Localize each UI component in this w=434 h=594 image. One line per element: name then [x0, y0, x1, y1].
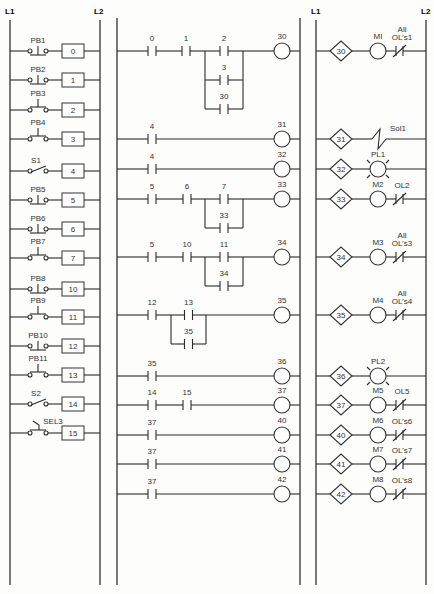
contact-no-icon: 13: [184, 298, 193, 320]
input-rung-3: PB43: [10, 118, 100, 146]
output-rung-32: 32PL1: [316, 150, 426, 179]
contact-address: 3: [222, 63, 227, 72]
contact-address: 2: [222, 34, 227, 43]
contact-no-icon: 1: [182, 34, 190, 56]
input-address: 11: [69, 313, 78, 322]
coil-address: 32: [278, 150, 287, 159]
ladder-svg: PB10PB21PB32PB43S14PB55PB66PB77PB810PB91…: [0, 0, 434, 594]
input-rung-1: PB21: [10, 65, 100, 87]
motor-starter-icon: [370, 249, 386, 265]
contact-no-icon: 0: [148, 34, 156, 56]
solenoid-icon: [372, 129, 386, 149]
input-rung-15: SEL315: [10, 417, 100, 440]
logic-rung-40: 3740: [117, 416, 300, 443]
input-rung-13: PB1113: [10, 354, 100, 382]
ladder-diagram: L1 L2 L1 L2 PB10PB21PB32PB43S14PB55PB66P…: [0, 0, 434, 594]
output-address: 30: [337, 47, 346, 56]
overload-label: OL's4: [392, 297, 413, 306]
input-rung-14: S214: [10, 389, 100, 411]
contact-no-icon: 4: [148, 122, 156, 144]
input-device-label: PB7: [30, 237, 46, 246]
contact-address: 30: [220, 92, 229, 101]
contact-address: 7: [222, 182, 227, 191]
coil-address: 40: [278, 416, 287, 425]
pilot-light-icon: [370, 368, 386, 384]
output-coil-icon: [274, 43, 290, 59]
output-coil-icon: [274, 191, 290, 207]
toggle-switch-icon: [28, 399, 48, 406]
output-address: 35: [337, 311, 346, 320]
overload-label: OL's1: [392, 33, 413, 42]
input-device-label: PB2: [30, 65, 46, 74]
contact-no-icon: 37: [148, 477, 157, 499]
output-coil-icon: [274, 397, 290, 413]
output-address: 34: [337, 253, 346, 262]
input-address: 7: [71, 254, 76, 263]
input-rung-6: PB66: [10, 214, 100, 236]
output-address: 36: [337, 372, 346, 381]
logic-rung-41: 3741: [117, 445, 300, 472]
output-address: 42: [337, 490, 346, 499]
motor-starter-icon: [370, 397, 386, 413]
coil-address: 42: [278, 475, 287, 484]
contact-no-icon: 2: [220, 34, 228, 56]
logic-rung-36: 3536: [117, 357, 300, 384]
input-rung-2: PB32: [10, 89, 100, 117]
input-rung-0: PB10: [10, 36, 100, 58]
output-section: 30MIAllOL's131Sol132PL133M2OL234M3AllOL'…: [316, 25, 426, 504]
output-rung-40: 40M6OL's6: [316, 416, 426, 445]
output-coil-icon: [274, 427, 290, 443]
contact-address: 12: [148, 298, 157, 307]
output-rung-30: 30MIAllOL's1: [316, 25, 426, 61]
pushbutton-icon: [28, 341, 48, 350]
contact-no-icon: 12: [148, 298, 157, 320]
logic-rung-35: 12133535: [117, 296, 300, 349]
output-rung-33: 33M2OL2: [316, 180, 426, 209]
contact-address: 0: [150, 34, 155, 43]
contact-address: 37: [148, 447, 157, 456]
input-rung-10: PB810: [10, 274, 100, 296]
output-device-label: M5: [372, 386, 384, 395]
overload-label: OL's7: [392, 446, 413, 455]
input-address: 13: [69, 371, 78, 380]
coil-address: 30: [278, 32, 287, 41]
input-rung-12: PB1012: [10, 331, 100, 353]
contact-address: 35: [148, 359, 157, 368]
output-rung-34: 34M3AllOL's3: [316, 231, 426, 267]
output-address: 40: [337, 431, 346, 440]
overload-label: OL2: [394, 181, 410, 190]
logic-rung-30: 01233030: [117, 32, 300, 114]
overload-label: OL's8: [392, 476, 413, 485]
output-device-label: MI: [374, 32, 383, 41]
pushbutton-icon: [28, 99, 48, 112]
output-device-label: M4: [372, 296, 384, 305]
contact-no-icon: 37: [148, 418, 157, 440]
contact-no-icon: 30: [220, 92, 229, 114]
output-device-label: M7: [372, 445, 384, 454]
motor-starter-icon: [370, 43, 386, 59]
contact-address: 14: [148, 388, 157, 397]
output-coil-icon: [274, 486, 290, 502]
pushbutton-icon: [28, 306, 48, 319]
output-rung-37: 37M5OL5: [316, 386, 426, 415]
contact-no-icon: 3: [220, 63, 228, 85]
contact-no-icon: 6: [183, 182, 191, 204]
overload-label: OL's3: [392, 239, 413, 248]
contact-address: 5: [150, 182, 155, 191]
contact-no-icon: 15: [183, 388, 192, 410]
input-rung-5: PB55: [10, 185, 100, 207]
coil-address: 31: [278, 120, 287, 129]
input-device-label: PB8: [30, 274, 46, 283]
contact-no-icon: 7: [220, 182, 228, 204]
contact-address: 34: [220, 269, 229, 278]
output-coil-icon: [274, 307, 290, 323]
logic-rung-33: 5673333: [117, 180, 300, 233]
contact-address: 10: [183, 240, 192, 249]
output-address: 41: [337, 460, 346, 469]
output-address: 32: [337, 165, 346, 174]
contact-address: 37: [148, 477, 157, 486]
input-address: 1: [71, 76, 76, 85]
contact-no-icon: 35: [184, 327, 193, 349]
contact-no-icon: 37: [148, 447, 157, 469]
input-rung-7: PB77: [10, 237, 100, 265]
